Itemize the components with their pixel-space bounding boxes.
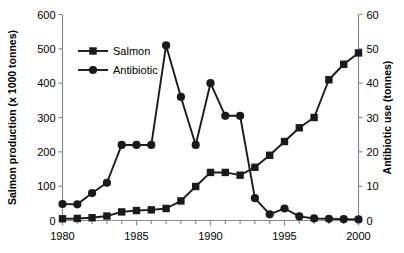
data-point-antibiotic xyxy=(88,189,96,197)
data-point-antibiotic xyxy=(206,79,214,87)
data-point-antibiotic xyxy=(280,204,288,212)
data-point-salmon xyxy=(266,152,273,159)
data-point-antibiotic xyxy=(354,215,362,223)
left-axis-tick-label: 400 xyxy=(37,77,55,89)
right-axis-tick-label: 10 xyxy=(367,180,379,192)
left-axis-tick-label: 0 xyxy=(49,215,55,227)
left-axis-tick-label: 100 xyxy=(37,180,55,192)
data-point-salmon xyxy=(251,164,258,171)
right-axis-tick-label: 40 xyxy=(367,77,379,89)
legend-marker-antibiotic xyxy=(89,66,97,74)
data-point-salmon xyxy=(222,169,229,176)
data-point-salmon xyxy=(340,61,347,68)
left-axis-title: Salmon production (x 1000 tonnes) xyxy=(6,30,18,205)
right-axis-tick-label: 60 xyxy=(367,9,379,21)
series-antibiotic xyxy=(58,41,362,223)
x-axis-tick-label: 1980 xyxy=(50,230,74,242)
data-point-antibiotic xyxy=(295,212,303,220)
series-salmon xyxy=(59,49,362,222)
legend-label-antibiotic: Antibiotic xyxy=(113,64,158,76)
right-axis-tick-label: 0 xyxy=(367,215,373,227)
data-point-salmon xyxy=(103,212,110,219)
data-point-salmon xyxy=(74,215,81,222)
right-axis-tick-label: 20 xyxy=(367,146,379,158)
data-point-salmon xyxy=(310,114,317,121)
data-point-salmon xyxy=(236,171,243,178)
data-point-salmon xyxy=(88,214,95,221)
data-point-salmon xyxy=(355,49,362,56)
data-point-salmon xyxy=(296,124,303,131)
data-point-antibiotic xyxy=(58,200,66,208)
data-point-antibiotic xyxy=(340,215,348,223)
legend-marker-salmon xyxy=(89,47,96,54)
data-point-antibiotic xyxy=(192,141,200,149)
data-point-antibiotic xyxy=(266,210,274,218)
left-axis-tick-label: 500 xyxy=(37,43,55,55)
data-point-antibiotic xyxy=(236,112,244,120)
data-point-salmon xyxy=(148,206,155,213)
series-line-antibiotic xyxy=(63,45,359,219)
data-point-antibiotic xyxy=(132,141,140,149)
data-point-antibiotic xyxy=(221,112,229,120)
data-point-salmon xyxy=(177,197,184,204)
data-point-salmon xyxy=(133,207,140,214)
data-point-antibiotic xyxy=(73,200,81,208)
right-axis-tick-label: 30 xyxy=(367,112,379,124)
data-point-salmon xyxy=(281,138,288,145)
legend-label-salmon: Salmon xyxy=(113,45,150,57)
x-axis-tick-label: 2000 xyxy=(346,230,370,242)
left-axis-tick-label: 200 xyxy=(37,146,55,158)
data-point-salmon xyxy=(325,76,332,83)
data-point-salmon xyxy=(162,205,169,212)
data-point-antibiotic xyxy=(177,93,185,101)
data-point-salmon xyxy=(59,215,66,222)
right-axis-tick-label: 50 xyxy=(367,43,379,55)
left-axis-tick-label: 600 xyxy=(37,9,55,21)
x-axis-tick-label: 1985 xyxy=(124,230,148,242)
chart-figure: 0100200300400500600010203040506019801985… xyxy=(0,0,404,253)
data-point-salmon xyxy=(118,208,125,215)
left-axis-tick-label: 300 xyxy=(37,112,55,124)
series-line-salmon xyxy=(63,53,359,219)
dual-axis-line-chart: 0100200300400500600010203040506019801985… xyxy=(0,0,404,253)
data-point-salmon xyxy=(192,183,199,190)
x-axis-tick-label: 1990 xyxy=(198,230,222,242)
data-point-antibiotic xyxy=(118,141,126,149)
data-point-salmon xyxy=(207,169,214,176)
x-axis-tick-label: 1995 xyxy=(272,230,296,242)
data-point-antibiotic xyxy=(147,141,155,149)
data-point-antibiotic xyxy=(103,179,111,187)
data-point-antibiotic xyxy=(251,194,259,202)
data-point-antibiotic xyxy=(310,214,318,222)
right-axis-title: Antibiotic use (tonnes) xyxy=(381,61,393,175)
legend xyxy=(78,47,108,74)
data-point-antibiotic xyxy=(325,215,333,223)
data-point-antibiotic xyxy=(162,41,170,49)
